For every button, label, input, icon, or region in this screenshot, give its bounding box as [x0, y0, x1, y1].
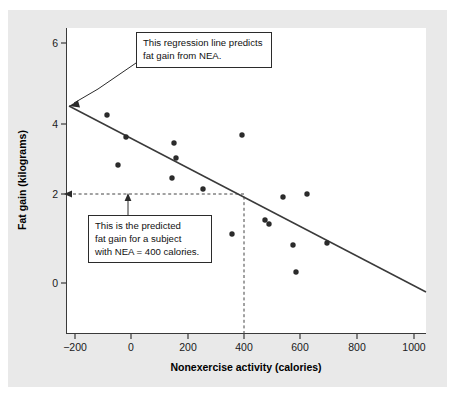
x-tick-label-200: 200: [179, 341, 197, 353]
regression-annotation-box: This regression line predicts fat gain f…: [136, 32, 272, 68]
regression-annotation-line-1: This regression line predicts: [143, 37, 265, 50]
regression-annotation-line-2: fat gain from NEA.: [143, 50, 265, 63]
x-tick-label-600: 600: [291, 341, 309, 353]
prediction-annotation-line-2: fat gain for a subject: [95, 233, 205, 246]
x-tick-label-0: 0: [128, 341, 134, 353]
y-axis-title: Fat gain (kilograms): [16, 130, 28, 230]
x-axis-title: Nonexercise activity (calories): [170, 361, 321, 373]
x-tick-label-1000: 1000: [402, 341, 425, 353]
y-tick-label-2: 2: [44, 188, 58, 200]
x-tick-label-400: 400: [235, 341, 253, 353]
prediction-annotation-line-3: with NEA = 400 calories.: [95, 246, 205, 259]
x-tick-label-minus200: −200: [63, 341, 87, 353]
x-tick-label-800: 800: [348, 341, 366, 353]
y-tick-label-6: 6: [44, 37, 58, 49]
prediction-annotation-line-1: This is the predicted: [95, 220, 205, 233]
y-tick-label-4: 4: [44, 118, 58, 130]
prediction-annotation-box: This is the predicted fat gain for a sub…: [88, 215, 212, 263]
plot-area: [66, 28, 426, 334]
figure-container: 6 4 2 0 −200 0 200 400 600 800 1000 None…: [0, 0, 455, 395]
y-tick-label-0: 0: [44, 277, 58, 289]
